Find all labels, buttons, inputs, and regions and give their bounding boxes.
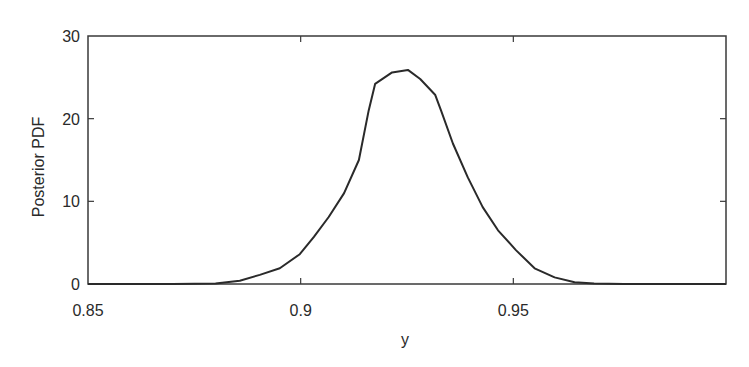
plot-area	[88, 36, 726, 284]
x-axis-label: y	[401, 331, 409, 348]
y-tick-label: 20	[62, 111, 80, 128]
y-tick-label: 10	[62, 193, 80, 210]
y-tick-label: 0	[71, 276, 80, 293]
posterior-pdf-chart: 0.850.90.95 0102030 y Posterior PDF	[0, 0, 749, 367]
x-tick-label: 0.95	[498, 302, 529, 319]
x-tick-label: 0.9	[290, 302, 312, 319]
x-tick-label: 0.85	[72, 302, 103, 319]
y-tick-label: 30	[62, 28, 80, 45]
y-axis-label: Posterior PDF	[30, 117, 47, 218]
